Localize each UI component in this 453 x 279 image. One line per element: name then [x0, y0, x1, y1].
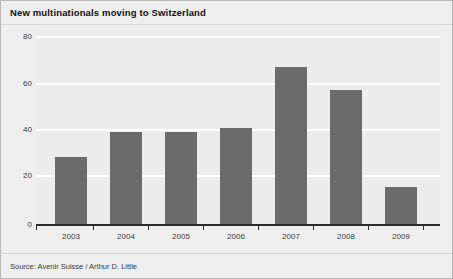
x-tick-label-2006: 2006: [227, 232, 245, 241]
x-axis-tick: [368, 226, 369, 230]
x-axis-tick: [313, 226, 314, 230]
x-tick-label-2005: 2005: [172, 232, 190, 241]
bar-2007: [275, 67, 307, 224]
x-axis-tick: [148, 226, 149, 230]
x-tick-label-2007: 2007: [282, 232, 300, 241]
x-axis-tick: [203, 226, 204, 230]
x-axis-tick: [93, 226, 94, 230]
y-tick-label-40: 40: [2, 125, 32, 134]
y-axis: 80 60 40 20 0: [0, 0, 32, 279]
x-tick-label-2008: 2008: [337, 232, 355, 241]
bar-2003: [55, 157, 87, 224]
chart-title: New multinationals moving to Switzerland: [10, 7, 206, 18]
y-tick-label-60: 60: [2, 79, 32, 88]
y-tick-label-80: 80: [2, 32, 32, 41]
y-tick-label-20: 20: [2, 171, 32, 180]
bar-2009: [385, 187, 417, 224]
x-axis-tick: [258, 226, 259, 230]
x-tick-label-2004: 2004: [117, 232, 135, 241]
title-divider: [0, 24, 453, 25]
x-tick-label-2009: 2009: [392, 232, 410, 241]
source-divider: [0, 253, 453, 254]
x-axis-tick: [36, 226, 37, 230]
source-note: Source: Avenir Suisse / Arthur D. Little: [10, 262, 137, 271]
x-axis-tick: [423, 226, 424, 230]
chart-figure: New multinationals moving to Switzerland…: [0, 0, 453, 279]
y-tick-label-0: 0: [2, 220, 32, 229]
bar-2004: [110, 132, 142, 224]
bars-layer: [36, 30, 440, 224]
x-axis-line: [36, 224, 440, 226]
x-tick-label-2003: 2003: [62, 232, 80, 241]
bar-2006: [220, 128, 252, 224]
bar-2005: [165, 132, 197, 224]
bar-2008: [330, 90, 362, 224]
